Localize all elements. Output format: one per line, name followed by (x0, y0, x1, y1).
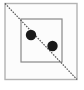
dot-lower-right (47, 41, 57, 51)
dot-upper-left (26, 30, 36, 40)
geometric-figure (0, 0, 84, 90)
figure-canvas: Square with inscribed square, diagonal a… (0, 0, 84, 90)
